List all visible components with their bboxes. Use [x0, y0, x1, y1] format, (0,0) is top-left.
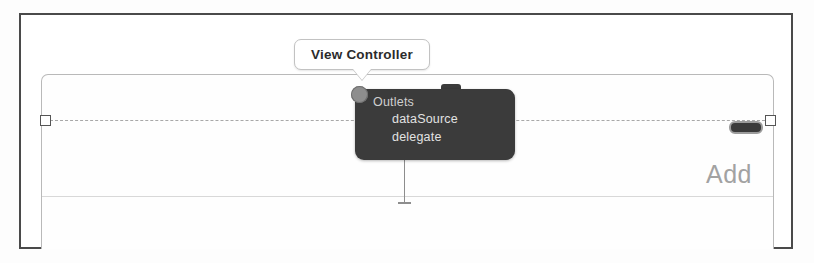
battery-pill-indicator — [729, 121, 763, 134]
view-controller-callout[interactable]: View Controller — [294, 39, 430, 70]
screenshot-root: Add View Controller Outlets dataSource d… — [0, 0, 814, 263]
resize-handle-right[interactable] — [765, 115, 776, 126]
callout-tail-icon — [353, 69, 371, 80]
connection-line-endpoint — [398, 202, 411, 204]
outlet-item-delegate[interactable]: delegate — [355, 128, 515, 146]
outlet-item-datasource[interactable]: dataSource — [355, 110, 515, 128]
view-controller-callout-label: View Controller — [311, 47, 413, 62]
scene-separator-line — [42, 196, 773, 197]
resize-handle-left[interactable] — [40, 115, 51, 126]
add-button-label[interactable]: Add — [706, 160, 752, 189]
connection-dot-icon[interactable] — [351, 86, 368, 103]
outlets-popup[interactable]: Outlets dataSource delegate — [355, 89, 515, 160]
outlets-popup-header: Outlets — [355, 93, 515, 110]
connection-line — [404, 158, 405, 204]
